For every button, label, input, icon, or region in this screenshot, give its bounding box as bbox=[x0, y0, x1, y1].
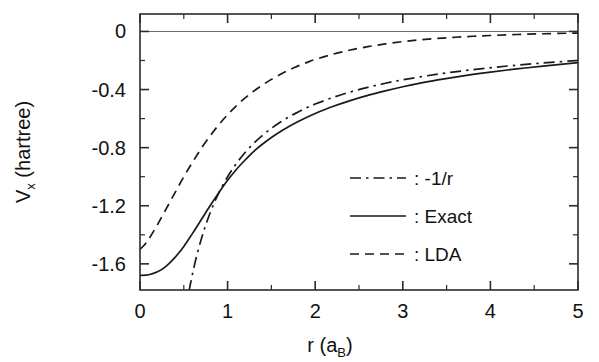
y-tick-label: -1.6 bbox=[92, 253, 126, 275]
exchange-potential-chart: 012345 0-0.4-0.8-1.2-1.6 r (aB) Vx (hart… bbox=[0, 0, 599, 362]
y-tick-label: 0 bbox=[115, 20, 126, 42]
x-tick-label: 5 bbox=[572, 300, 583, 322]
y-axis-title-tail: (hartree) bbox=[12, 101, 34, 183]
y-axis-title-main: V bbox=[12, 189, 34, 203]
legend-label-2: : LDA bbox=[414, 244, 462, 265]
legend-label-0: : -1/r bbox=[414, 168, 454, 189]
x-axis-title: r (aB) bbox=[307, 334, 352, 360]
y-tick-labels: 0-0.4-0.8-1.2-1.6 bbox=[92, 20, 126, 274]
x-tick-labels: 012345 bbox=[134, 300, 583, 322]
y-tick-label: -1.2 bbox=[92, 195, 126, 217]
svg-text:Vx (hartree): Vx (hartree) bbox=[12, 101, 38, 203]
y-tick-label: -0.8 bbox=[92, 137, 126, 159]
x-axis-title-tail: ) bbox=[346, 334, 353, 356]
svg-text:r (aB): r (aB) bbox=[307, 334, 352, 360]
x-tick-label: 4 bbox=[485, 300, 496, 322]
x-tick-label: 2 bbox=[310, 300, 321, 322]
legend-label-1: : Exact bbox=[414, 206, 473, 227]
plot-area-background bbox=[140, 14, 578, 290]
x-tick-label: 0 bbox=[134, 300, 145, 322]
x-axis-title-subscript: B bbox=[337, 345, 346, 360]
x-tick-label: 1 bbox=[222, 300, 233, 322]
chart-svg: 012345 0-0.4-0.8-1.2-1.6 r (aB) Vx (hart… bbox=[0, 0, 599, 362]
y-tick-label: -0.4 bbox=[92, 79, 126, 101]
y-axis-title: Vx (hartree) bbox=[12, 101, 38, 203]
x-axis-title-main: r (a bbox=[307, 334, 338, 356]
x-tick-label: 3 bbox=[397, 300, 408, 322]
